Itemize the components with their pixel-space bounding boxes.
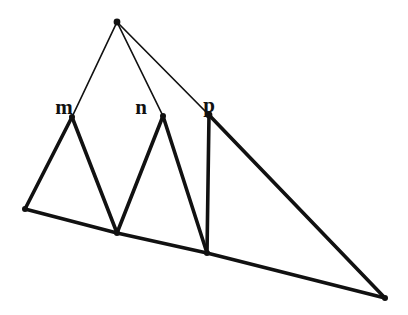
vertex-dot-apex [114, 19, 121, 26]
edge-m-baseleft [25, 117, 72, 209]
vertex-dot-base-right [382, 295, 388, 301]
edge-baseline-right [207, 253, 385, 298]
edges-group [25, 22, 385, 298]
vertex-dot-n [160, 113, 166, 119]
vertex-dots-group [22, 19, 388, 301]
label-p: p [203, 93, 215, 117]
geometric-figure: mnp [0, 0, 408, 315]
label-n: n [135, 95, 147, 119]
diagram-canvas: mnp [0, 0, 408, 315]
edge-p-basep [207, 115, 209, 253]
edge-n-basemid [117, 116, 163, 233]
label-m: m [55, 95, 73, 119]
edge-baseline-left [25, 209, 117, 233]
edge-n-basep [163, 116, 207, 253]
edge-apex-m [72, 22, 117, 117]
vertex-dot-base-p [204, 250, 210, 256]
edge-p-baseright [209, 115, 385, 298]
edge-baseline-mid [117, 233, 207, 253]
vertex-dot-base-left [22, 206, 28, 212]
vertex-dot-base-mid [114, 230, 120, 236]
edge-m-basemid [72, 117, 117, 233]
edge-apex-p [117, 22, 209, 115]
